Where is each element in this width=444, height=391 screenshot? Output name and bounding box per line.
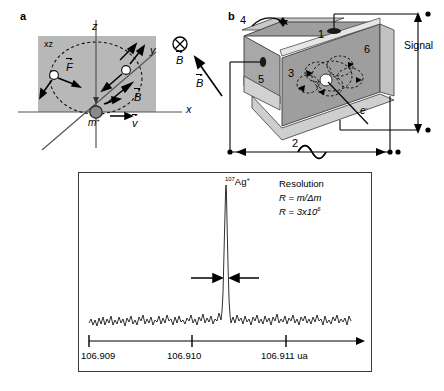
electrode-6-right-strip: [380, 24, 394, 96]
ion-label-charge: +: [96, 116, 100, 123]
mass-spectrum-panel: 107Ag+ Resolution R = m/Δm R = 3x106 106…: [78, 172, 372, 372]
peak-label: 107Ag+: [225, 177, 250, 187]
force-vector-label: F: [66, 62, 73, 73]
electron-label-charge: -: [366, 104, 368, 111]
electrode-5-contact-pad: [260, 57, 266, 67]
spectrum-plot: [79, 173, 371, 371]
ion-label: m+: [88, 118, 100, 128]
vector-bar-f: [66, 58, 72, 59]
peak-label-charge: +: [246, 176, 249, 182]
vector-bar-b1: [134, 88, 140, 89]
axis-label-z: z: [92, 21, 98, 32]
electrode-label-2: 2: [292, 138, 298, 149]
vector-bar-v: [132, 114, 137, 115]
b-vector-label-into-page: B: [176, 55, 183, 66]
electrode-label-1: 1: [318, 29, 324, 40]
resolution-value-exponent: 6: [317, 206, 320, 212]
b-vector-label-external: B: [196, 78, 203, 89]
orbit-ion-right: [122, 66, 131, 75]
resolution-value-prefix: R = 3x10: [279, 206, 317, 217]
orbit-ion-left: [50, 71, 59, 80]
signal-node-top: [425, 11, 430, 16]
resolution-title: Resolution: [279, 179, 324, 189]
electrode-1-contact-pad: [327, 28, 341, 34]
electrode-label-3: 3: [288, 68, 294, 79]
xtick-label-2: 106.910: [167, 351, 201, 361]
signal-label: Signal: [404, 40, 433, 51]
figure-root: a: [0, 0, 444, 391]
peak-label-element: Ag: [235, 176, 247, 187]
panel-a-graphic: [0, 0, 225, 160]
resolution-value: R = 3x106: [279, 207, 321, 217]
vector-bar-b2: [176, 51, 182, 52]
electrode-label-4: 4: [240, 15, 246, 26]
force-vector-text: F: [66, 61, 73, 73]
electrode-label-6: 6: [364, 44, 370, 55]
signal-node-bottom: [425, 127, 430, 132]
xtick-label-1: 106.909: [81, 351, 115, 361]
b-vector-text-into-page: B: [176, 54, 183, 66]
b-vector-label-origin: B: [134, 92, 141, 103]
vector-bar-b3: [196, 74, 202, 75]
velocity-vector-label: v: [132, 118, 138, 129]
b-vector-text-external: B: [196, 77, 203, 89]
b-vector-text-origin: B: [134, 91, 141, 103]
panel-b-graphic: [222, 0, 444, 165]
resolution-formula: R = m/Δm: [279, 193, 322, 203]
axis-label-x: x: [186, 104, 192, 115]
velocity-vector-text: v: [132, 117, 138, 129]
xz-plane-label: xz: [44, 40, 53, 49]
electron-label: e-: [360, 106, 368, 116]
excitation-node-right: [387, 149, 392, 154]
electrode-label-5: 5: [258, 74, 264, 85]
xtick-label-3: 106.911 ua: [261, 351, 308, 361]
axis-label-y: y: [150, 45, 156, 56]
circle-cross-icon: [173, 37, 187, 51]
peak-width-marker: [191, 274, 259, 282]
peak-label-mass: 107: [225, 176, 235, 182]
excitation-node-left: [227, 149, 232, 154]
